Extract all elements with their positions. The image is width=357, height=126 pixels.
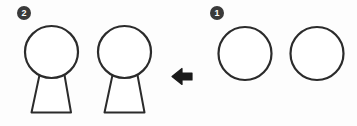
step-1-group	[219, 27, 344, 80]
transformation-arrow	[172, 69, 192, 85]
step-2-group	[25, 26, 151, 113]
figure-left-b-body	[105, 75, 145, 113]
figure-left-a	[25, 26, 78, 113]
circle-right-a	[219, 27, 272, 80]
diagram-shapes-layer	[0, 0, 357, 126]
figure-left-b	[98, 26, 151, 113]
arrow-left-icon	[172, 69, 192, 85]
diagram-canvas: 2 1	[0, 0, 357, 126]
circle-right-b	[291, 27, 344, 80]
figure-left-a-body	[32, 75, 72, 113]
step-marker-2: 2	[17, 6, 31, 20]
step-marker-1: 1	[210, 6, 224, 20]
figure-left-a-head	[25, 26, 78, 78]
figure-left-b-head	[98, 26, 151, 78]
